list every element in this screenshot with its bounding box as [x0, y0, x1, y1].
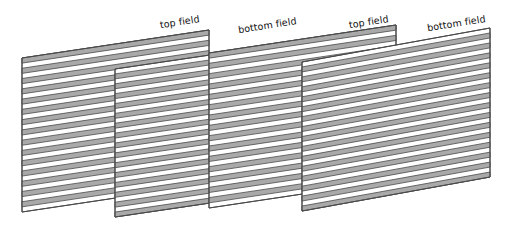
interlaced-fields-diagram: top fieldbottom fieldtop fieldbottom fie… [0, 0, 505, 228]
figure-canvas: top fieldbottom fieldtop fieldbottom fie… [0, 0, 505, 228]
panels-layer [22, 25, 490, 217]
field-label-2: bottom field [237, 15, 297, 35]
field-label-1: top field [159, 13, 200, 30]
